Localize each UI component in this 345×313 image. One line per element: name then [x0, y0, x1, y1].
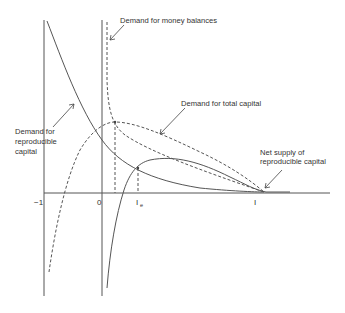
intersection-point-i-e [137, 167, 139, 169]
tick-i: I [254, 198, 256, 207]
tick-i-e-subscript: e [140, 202, 143, 208]
label-net-supply-2: reproducible capital [260, 157, 326, 166]
label-demand-repro-2: reproducible [15, 137, 57, 146]
demand-total-capital-curve [49, 122, 264, 272]
intersection-point [114, 121, 116, 123]
arrow-supply [265, 170, 282, 188]
tick-i-e: I [136, 198, 138, 207]
label-demand-money: Demand for money balances [120, 16, 217, 25]
arrow-total [160, 108, 185, 134]
label-demand-repro-3: capital [15, 147, 37, 156]
label-demand-total: Demand for total capital [181, 99, 262, 108]
label-demand-repro-1: Demand for [15, 127, 55, 136]
tick-zero: 0 [97, 198, 102, 207]
arrow-reproducible [53, 104, 74, 127]
tick-minus-one: −1 [34, 198, 44, 207]
capital-demand-diagram: Demand for money balances Demand for tot… [0, 0, 345, 313]
arrow-money [110, 25, 124, 40]
net-supply-reproducible-capital-curve [107, 158, 290, 288]
label-net-supply-1: Net supply of [260, 148, 305, 157]
